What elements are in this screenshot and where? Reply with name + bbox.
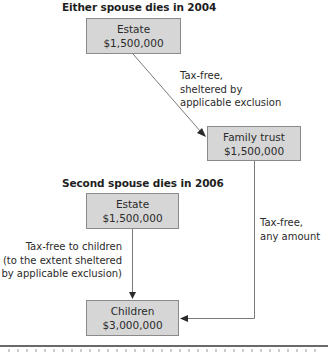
arrow-trust-to-children bbox=[187, 161, 255, 319]
bottom-rule bbox=[0, 345, 328, 347]
arrow-estate-to-trust bbox=[133, 54, 201, 132]
arrowhead-trust-to-children bbox=[180, 315, 188, 322]
connectors bbox=[0, 0, 328, 352]
arrowhead-estate-to-children bbox=[129, 292, 136, 299]
